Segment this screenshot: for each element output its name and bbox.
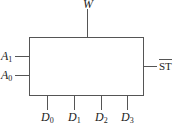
a0-label: A0 <box>0 68 12 83</box>
mux-diagram: W A1 A0 ST D0 D1 D2 D3 <box>0 0 178 131</box>
w-label: W <box>83 0 94 11</box>
d2-label: D2 <box>94 110 108 125</box>
d0-label: D0 <box>40 110 54 125</box>
d1-label: D1 <box>67 110 81 125</box>
mux-block <box>30 38 144 96</box>
st-label: ST <box>159 60 172 72</box>
a1-label: A1 <box>0 49 12 64</box>
d3-label: D3 <box>120 110 134 125</box>
